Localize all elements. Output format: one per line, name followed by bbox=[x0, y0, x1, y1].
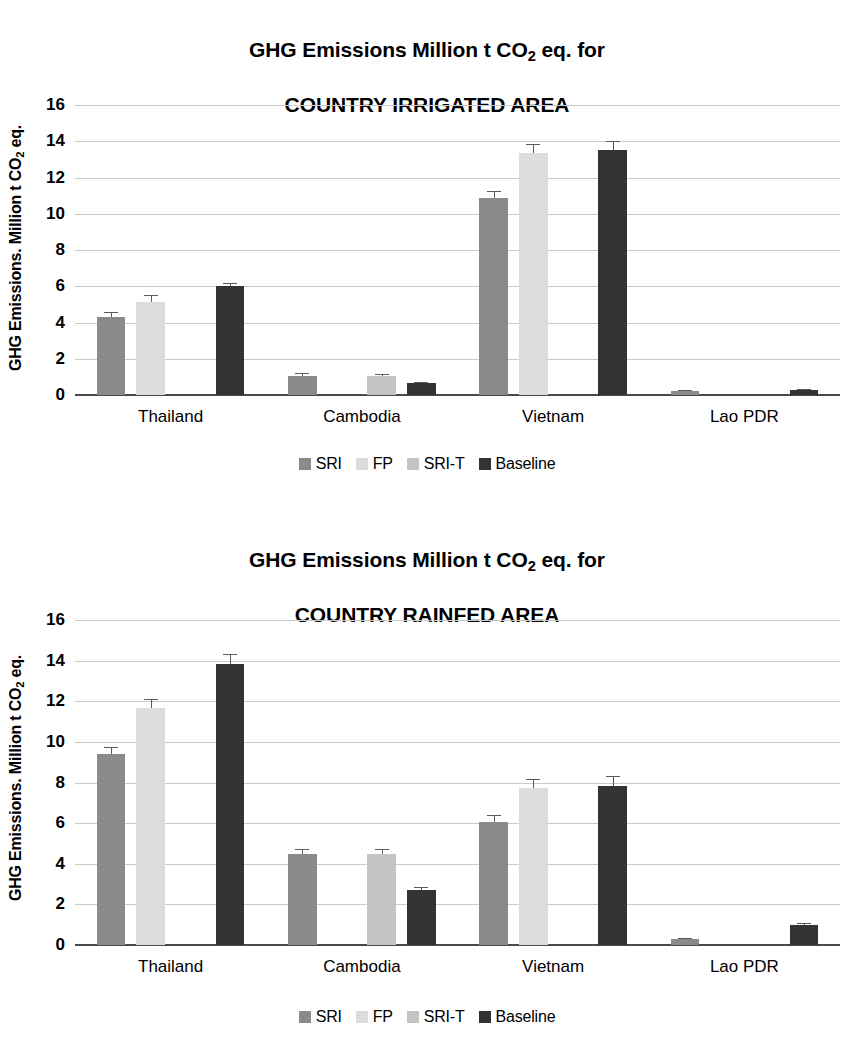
bar-sri-thailand bbox=[97, 754, 126, 945]
chart-title-line-1: GHG Emissions Million t CO2 eq. for bbox=[0, 546, 854, 574]
chart-title-line-1: GHG Emissions Million t CO2 eq. for bbox=[0, 36, 854, 64]
error-bar-stem bbox=[533, 144, 534, 153]
x-axis-tick-label: Cambodia bbox=[323, 407, 401, 427]
error-bar-cap bbox=[487, 815, 501, 816]
error-bar-stem bbox=[613, 141, 614, 150]
legend-label: Baseline bbox=[496, 455, 556, 473]
x-axis-line bbox=[75, 944, 840, 946]
error-bar-cap bbox=[375, 374, 389, 375]
legend-item-sri-t[interactable]: SRI-T bbox=[407, 455, 465, 473]
bar-sri-vietnam bbox=[479, 822, 508, 945]
x-axis-tick-label: Vietnam bbox=[522, 957, 584, 977]
legend-rainfed: SRIFPSRI-TBaseline bbox=[0, 1008, 854, 1026]
bar-sri-t-cambodia bbox=[367, 376, 396, 395]
gridline bbox=[75, 214, 840, 215]
error-bar-stem bbox=[494, 815, 495, 822]
plot-canvas-irrigated: 0246810121416ThailandCambodiaVietnamLao … bbox=[75, 105, 840, 395]
bar-baseline-lao-pdr bbox=[790, 925, 819, 945]
error-bar-stem bbox=[533, 779, 534, 787]
gridline bbox=[75, 661, 840, 662]
legend-item-baseline[interactable]: Baseline bbox=[479, 1008, 556, 1026]
plot-area-irrigated: GHG Emissions. Million t CO2 eq. 0246810… bbox=[0, 88, 854, 488]
gridline bbox=[75, 904, 840, 905]
x-axis-tick-label: Thailand bbox=[138, 407, 203, 427]
legend-item-fp[interactable]: FP bbox=[356, 455, 393, 473]
bar-baseline-vietnam bbox=[598, 786, 627, 945]
error-bar-stem bbox=[613, 776, 614, 785]
bar-sri-t-cambodia bbox=[367, 854, 396, 945]
gridline bbox=[75, 620, 840, 621]
gridline bbox=[75, 783, 840, 784]
y-axis-tick-label: 4 bbox=[56, 854, 65, 874]
legend-irrigated: SRIFPSRI-TBaseline bbox=[0, 455, 854, 473]
y-axis-label-irrigated: GHG Emissions. Million t CO2 eq. bbox=[2, 88, 30, 408]
bar-baseline-thailand bbox=[216, 286, 245, 395]
legend-label: SRI-T bbox=[424, 1008, 465, 1026]
error-bar-cap bbox=[797, 389, 811, 390]
error-bar-cap bbox=[104, 312, 118, 313]
gridline bbox=[75, 105, 840, 106]
legend-swatch-icon bbox=[299, 1011, 311, 1023]
bar-sri-lao-pdr bbox=[671, 391, 700, 395]
legend-item-sri[interactable]: SRI bbox=[299, 1008, 342, 1026]
error-bar-cap bbox=[797, 923, 811, 924]
error-bar-stem bbox=[111, 747, 112, 754]
error-bar-cap bbox=[606, 141, 620, 142]
y-axis-tick-label: 0 bbox=[56, 935, 65, 955]
co2-subscript: 2 bbox=[528, 558, 536, 574]
x-axis-tick-label: Vietnam bbox=[522, 407, 584, 427]
error-bar-cap bbox=[295, 373, 309, 374]
error-bar-stem bbox=[494, 191, 495, 198]
legend-label: SRI bbox=[316, 455, 342, 473]
gridline bbox=[75, 864, 840, 865]
error-bar-cap bbox=[144, 699, 158, 700]
bar-sri-cambodia bbox=[288, 854, 317, 945]
legend-swatch-icon bbox=[356, 1011, 368, 1023]
x-axis-tick-label: Cambodia bbox=[323, 957, 401, 977]
error-bar-cap bbox=[526, 779, 540, 780]
bar-sri-cambodia bbox=[288, 376, 317, 395]
y-axis-tick-label: 8 bbox=[56, 240, 65, 260]
error-bar-cap bbox=[678, 938, 692, 939]
error-bar-cap bbox=[414, 887, 428, 888]
y-axis-tick-label: 2 bbox=[56, 894, 65, 914]
co2-subscript: 2 bbox=[14, 682, 26, 688]
y-axis-tick-label: 8 bbox=[56, 773, 65, 793]
y-axis-tick-label: 12 bbox=[46, 691, 65, 711]
bar-fp-thailand bbox=[136, 302, 165, 395]
error-bar-cap bbox=[295, 849, 309, 850]
y-axis-tick-label: 4 bbox=[56, 313, 65, 333]
legend-swatch-icon bbox=[407, 1011, 419, 1023]
legend-swatch-icon bbox=[479, 458, 491, 470]
error-bar-stem bbox=[151, 699, 152, 708]
gridline bbox=[75, 742, 840, 743]
error-bar-cap bbox=[678, 390, 692, 391]
error-bar-cap bbox=[223, 654, 237, 655]
bar-fp-vietnam bbox=[519, 788, 548, 945]
x-axis-tick-label: Thailand bbox=[138, 957, 203, 977]
bar-baseline-vietnam bbox=[598, 150, 627, 395]
plot-area-rainfed: GHG Emissions. Million t CO2 eq. 0246810… bbox=[0, 598, 854, 998]
legend-item-sri[interactable]: SRI bbox=[299, 455, 342, 473]
y-axis-tick-label: 12 bbox=[46, 168, 65, 188]
legend-swatch-icon bbox=[407, 458, 419, 470]
legend-item-baseline[interactable]: Baseline bbox=[479, 455, 556, 473]
legend-label: Baseline bbox=[496, 1008, 556, 1026]
y-axis-tick-label: 16 bbox=[46, 610, 65, 630]
bar-baseline-thailand bbox=[216, 664, 245, 945]
gridline bbox=[75, 359, 840, 360]
error-bar-cap bbox=[375, 849, 389, 850]
bar-fp-vietnam bbox=[519, 153, 548, 395]
error-bar-cap bbox=[606, 776, 620, 777]
y-axis-tick-label: 10 bbox=[46, 204, 65, 224]
legend-item-fp[interactable]: FP bbox=[356, 1008, 393, 1026]
y-axis-tick-label: 14 bbox=[46, 131, 65, 151]
error-bar-cap bbox=[414, 382, 428, 383]
error-bar-cap bbox=[223, 283, 237, 284]
legend-swatch-icon bbox=[356, 458, 368, 470]
legend-label: SRI-T bbox=[424, 455, 465, 473]
gridline bbox=[75, 286, 840, 287]
bar-fp-thailand bbox=[136, 708, 165, 945]
legend-swatch-icon bbox=[479, 1011, 491, 1023]
legend-item-sri-t[interactable]: SRI-T bbox=[407, 1008, 465, 1026]
